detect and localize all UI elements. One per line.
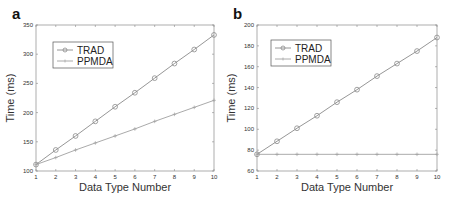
y-tick-label: 100 (244, 126, 255, 132)
x-tick-label: 5 (335, 174, 339, 180)
y-tick-label: 180 (244, 43, 255, 49)
x-tick-label: 4 (94, 174, 98, 180)
x-tick-label: 10 (434, 174, 441, 180)
x-tick-label: 2 (275, 174, 279, 180)
panel-label: a (12, 5, 21, 22)
y-tick-label: 150 (23, 139, 34, 145)
x-tick-label: 6 (133, 174, 137, 180)
x-tick-label: 9 (415, 174, 419, 180)
y-tick-label: 350 (23, 22, 34, 28)
y-tick-label: 60 (247, 168, 254, 174)
x-tick-label: 3 (295, 174, 299, 180)
x-tick-label: 6 (355, 174, 359, 180)
y-tick-label: 200 (23, 110, 34, 116)
x-tick-label: 1 (255, 174, 259, 180)
legend: TRADPPMDA (53, 42, 113, 68)
x-tick-label: 7 (375, 174, 379, 180)
x-tick-label: 9 (193, 174, 197, 180)
y-tick-label: 140 (244, 85, 255, 91)
x-tick-label: 8 (173, 174, 177, 180)
x-axis-title: Data Type Number (301, 181, 393, 193)
y-tick-label: 80 (247, 147, 254, 153)
y-tick-label: 100 (23, 168, 34, 174)
x-tick-label: 7 (153, 174, 157, 180)
x-axis-title: Data Type Number (79, 181, 171, 193)
chart-panel-b: b123456789106080100120140160180200Data T… (225, 5, 441, 193)
panel-label: b (233, 5, 242, 22)
legend-entry-trad: TRAD (77, 45, 104, 56)
x-tick-label: 1 (34, 174, 38, 180)
x-tick-label: 3 (74, 174, 78, 180)
x-tick-label: 10 (211, 174, 218, 180)
y-axis-title: Time (ms) (4, 73, 16, 122)
legend-entry-ppmda: PPMDA (77, 56, 113, 67)
legend-entry-trad: TRAD (295, 43, 322, 54)
y-tick-label: 200 (244, 22, 255, 28)
x-tick-label: 4 (315, 174, 319, 180)
y-tick-label: 300 (23, 51, 34, 57)
y-tick-label: 250 (23, 80, 34, 86)
legend: TRADPPMDA (271, 40, 331, 66)
chart-panel-a: a12345678910100150200250300350Data Type … (4, 5, 218, 193)
x-tick-label: 2 (54, 174, 58, 180)
x-tick-label: 8 (395, 174, 399, 180)
legend-entry-ppmda: PPMDA (295, 54, 331, 65)
figure: a12345678910100150200250300350Data Type … (0, 0, 453, 205)
y-tick-label: 160 (244, 64, 255, 70)
y-tick-label: 120 (244, 105, 255, 111)
x-tick-label: 5 (113, 174, 117, 180)
y-axis-title: Time (ms) (225, 73, 237, 122)
